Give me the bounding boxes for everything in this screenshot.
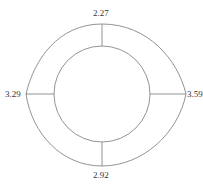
label-right: 3.59 [187, 89, 203, 99]
ring-diagram [0, 0, 203, 184]
label-left: 3.29 [5, 89, 21, 99]
label-top: 2.27 [93, 8, 109, 18]
label-bottom: 2.92 [93, 170, 109, 180]
inner-circle [54, 46, 150, 142]
outer-ring [26, 24, 186, 166]
